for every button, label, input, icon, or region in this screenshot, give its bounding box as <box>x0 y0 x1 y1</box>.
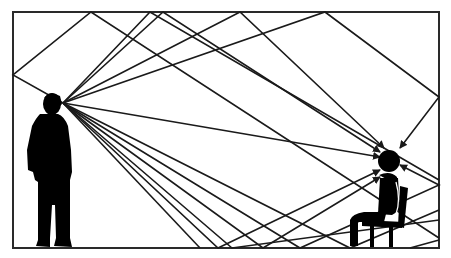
acoustic-diagram <box>0 0 451 258</box>
diagram-canvas <box>0 0 451 258</box>
